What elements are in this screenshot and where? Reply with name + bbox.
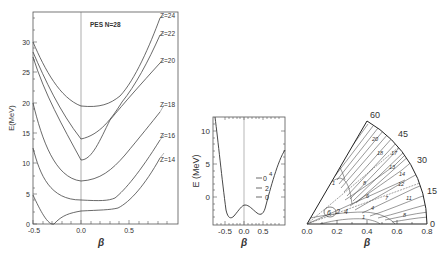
svg-text:0.5: 0.5 — [124, 227, 134, 234]
middle-pes-curve — [215, 117, 285, 218]
svg-text:11: 11 — [406, 195, 412, 201]
svg-text:15: 15 — [427, 186, 437, 196]
right-x-tick-labels: 0.0 0.2 0.4 0.6 0.8 — [301, 227, 433, 236]
svg-text:0.0: 0.0 — [238, 227, 250, 236]
svg-text:0: 0 — [263, 175, 267, 182]
svg-text:5: 5 — [26, 191, 30, 198]
left-y-tick-labels: 0 5 10 15 20 25 30 — [22, 39, 30, 228]
svg-text:14: 14 — [399, 171, 405, 177]
svg-text:25: 25 — [22, 69, 30, 76]
svg-text:30: 30 — [22, 39, 30, 46]
left-x-axis-label: β — [97, 237, 104, 248]
middle-y-tick-labels: 10 5 0 — [201, 127, 210, 202]
svg-text:4: 4 — [371, 205, 374, 211]
label-z22: Z=22 — [160, 30, 175, 37]
svg-text:15: 15 — [22, 130, 30, 137]
svg-text:1: 1 — [362, 214, 365, 220]
svg-text:1: 1 — [332, 180, 335, 186]
label-z20: Z=20 — [160, 57, 175, 64]
svg-text:8: 8 — [363, 180, 367, 186]
label-z18: Z=18 — [160, 101, 175, 108]
svg-text:10: 10 — [22, 160, 30, 167]
left-x-tick-labels: -0.5 0.0 0.5 — [28, 227, 134, 234]
middle-x-axis-label: β — [240, 237, 247, 248]
right-contour-plot: 20 18 17 13 14 12 11 8 7 6 4 1 6 2 4 8 1… — [301, 110, 437, 248]
svg-text:8: 8 — [403, 212, 407, 218]
svg-text:0.4: 0.4 — [361, 227, 373, 236]
svg-text:0.6: 0.6 — [391, 227, 403, 236]
curve-z22 — [33, 35, 160, 139]
svg-text:13: 13 — [389, 164, 396, 170]
svg-text:18: 18 — [377, 150, 384, 156]
figure: 0 5 10 15 20 25 30 -0.5 0.0 0.5 β E(MeV)… — [0, 0, 448, 261]
right-x-axis-label: β — [363, 237, 370, 248]
middle-plot-frame — [213, 117, 285, 225]
svg-text:4: 4 — [344, 208, 348, 215]
svg-text:-0.5: -0.5 — [28, 227, 40, 234]
curve-z20 — [33, 57, 160, 160]
left-plot-title: PES N=28 — [90, 21, 121, 28]
middle-y-axis-label: E (MeV) — [191, 154, 201, 187]
svg-text:7: 7 — [385, 195, 389, 201]
svg-text:10: 10 — [201, 127, 210, 136]
svg-text:6: 6 — [327, 209, 331, 216]
label-z16: Z=16 — [160, 132, 175, 139]
svg-text:17: 17 — [391, 150, 398, 156]
left-x-ticks — [33, 220, 167, 224]
svg-text:0: 0 — [265, 194, 269, 201]
svg-text:20: 20 — [22, 100, 30, 107]
svg-text:20: 20 — [371, 136, 379, 142]
svg-text:0: 0 — [430, 219, 435, 229]
curve-z16 — [33, 140, 160, 201]
svg-text:4: 4 — [269, 171, 273, 177]
label-z14: Z=14 — [160, 156, 175, 163]
left-pes-plot: 0 5 10 15 20 25 30 -0.5 0.0 0.5 β E(MeV)… — [7, 12, 178, 248]
svg-text:60: 60 — [370, 110, 380, 120]
svg-text:-0.5: -0.5 — [218, 227, 232, 236]
sector-outline — [307, 121, 427, 224]
left-curves — [33, 18, 160, 224]
curve-z18 — [33, 103, 160, 181]
left-y-axis-label: E(MeV) — [7, 105, 16, 131]
svg-text:0.5: 0.5 — [257, 227, 269, 236]
curve-labels: Z=24 Z=22 Z=20 Z=18 Z=16 Z=14 — [160, 12, 175, 163]
svg-text:0.0: 0.0 — [301, 227, 313, 236]
svg-text:45: 45 — [398, 129, 408, 139]
middle-ticks — [213, 117, 285, 225]
svg-text:0.2: 0.2 — [331, 227, 343, 236]
svg-text:0: 0 — [206, 193, 211, 202]
svg-text:0.0: 0.0 — [76, 227, 86, 234]
middle-legend: 0 4 2 0 — [256, 171, 273, 201]
middle-pes-plot: 10 5 0 -0.5 0.0 0.5 β E (MeV) 0 4 2 0 — [191, 117, 285, 248]
svg-text:5: 5 — [206, 160, 211, 169]
middle-x-tick-labels: -0.5 0.0 0.5 — [218, 227, 269, 236]
svg-text:2: 2 — [265, 185, 269, 192]
svg-text:30: 30 — [417, 155, 427, 165]
svg-text:12: 12 — [398, 181, 404, 187]
label-z24: Z=24 — [160, 12, 175, 19]
